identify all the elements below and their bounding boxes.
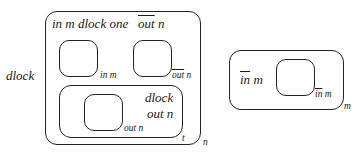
cell-b: [133, 40, 172, 77]
cell-a: [59, 40, 98, 77]
right-box-corner-label: m: [344, 102, 351, 112]
outer-box-title-2: out n: [138, 17, 164, 30]
inner-box-line1: dlock: [145, 91, 173, 104]
outer-box-corner-label: n: [203, 138, 208, 148]
left-label: dlock: [6, 69, 34, 82]
outer-box-title: in m dlock one: [52, 17, 128, 30]
inner-cell: [84, 94, 123, 131]
cell-b-label: out n: [172, 71, 191, 81]
right-box-title: in m: [240, 73, 263, 86]
right-cell-label: in m: [315, 90, 332, 100]
right-cell: [276, 59, 315, 96]
inner-box-corner-label: t: [182, 134, 185, 144]
inner-cell-label: out n: [124, 124, 143, 134]
inner-box-line2: out n: [147, 107, 173, 120]
cell-a-label: in m: [100, 71, 117, 81]
